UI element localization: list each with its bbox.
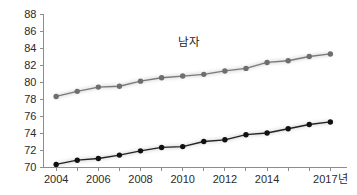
data-point xyxy=(307,122,312,127)
series-1 xyxy=(53,51,333,99)
data-point xyxy=(264,60,269,65)
annotation-layer: 남자 xyxy=(178,36,200,48)
data-point xyxy=(96,84,101,89)
series-layer xyxy=(53,51,333,167)
data-point xyxy=(53,162,58,167)
data-point xyxy=(96,156,101,161)
data-point xyxy=(285,126,290,131)
y-tick-label: 88 xyxy=(24,8,36,20)
x-tick-label: 2004 xyxy=(44,173,68,185)
y-tick-label: 76 xyxy=(24,110,36,122)
x-tick-label: 2014 xyxy=(255,173,279,185)
data-point xyxy=(328,119,333,124)
data-point xyxy=(307,54,312,59)
data-point xyxy=(159,145,164,150)
data-point xyxy=(201,139,206,144)
y-tick-label: 80 xyxy=(24,76,36,88)
series-2 xyxy=(53,119,333,167)
data-point xyxy=(222,137,227,142)
line-chart: 70727476788082848688 2004200620082010201… xyxy=(0,0,357,195)
data-point xyxy=(180,144,185,149)
data-point xyxy=(180,73,185,78)
y-tick-label: 82 xyxy=(24,59,36,71)
y-tick-label: 84 xyxy=(24,42,36,54)
y-axis: 70727476788082848688 xyxy=(24,8,43,173)
y-tick-label: 78 xyxy=(24,93,36,105)
y-tick-label: 70 xyxy=(24,161,36,173)
data-point xyxy=(53,94,58,99)
x-axis: 2004200620082010201220142017년 xyxy=(44,167,348,185)
y-tick-label: 86 xyxy=(24,25,36,37)
data-point xyxy=(138,148,143,153)
data-point xyxy=(328,51,333,56)
x-tick-label: 2017년 xyxy=(313,173,347,185)
series-annotation-label: 남자 xyxy=(178,36,200,48)
data-point xyxy=(117,84,122,89)
data-point xyxy=(243,132,248,137)
y-tick-label: 74 xyxy=(24,127,36,139)
data-point xyxy=(285,58,290,63)
x-tick-label: 2006 xyxy=(86,173,110,185)
data-point xyxy=(201,72,206,77)
x-tick-label: 2012 xyxy=(213,173,237,185)
data-point xyxy=(138,78,143,83)
x-tick-label: 2008 xyxy=(128,173,152,185)
y-tick-label: 72 xyxy=(24,144,36,156)
data-point xyxy=(222,68,227,73)
chart-container: 70727476788082848688 2004200620082010201… xyxy=(0,0,357,195)
data-point xyxy=(264,130,269,135)
data-point xyxy=(75,89,80,94)
data-point xyxy=(243,66,248,71)
data-point xyxy=(75,158,80,163)
data-point xyxy=(159,75,164,80)
data-point xyxy=(117,152,122,157)
x-tick-label: 2010 xyxy=(170,173,194,185)
